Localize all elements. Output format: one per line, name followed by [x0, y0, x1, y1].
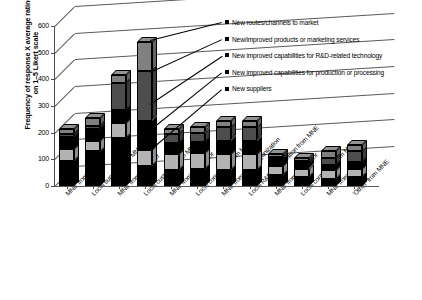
y-axis-tick-label: 500: [27, 49, 49, 56]
bar-segment[interactable]: [137, 121, 152, 150]
y-axis-tick-label: 0: [27, 182, 49, 189]
bar-segment[interactable]: [164, 154, 179, 170]
bar-segment[interactable]: [268, 159, 283, 166]
legend-item[interactable]: New improved capabilities for production…: [225, 68, 384, 85]
bar-segment[interactable]: [137, 150, 152, 166]
legend-swatch-icon: [225, 37, 229, 41]
y-axis-tick: [51, 106, 54, 107]
bar-segment[interactable]: [190, 153, 205, 169]
legend-item-label: New suppliers: [232, 85, 271, 92]
legend-item-label: New improved capabilities for R&D-relate…: [232, 52, 382, 59]
legend-item-label: New/improved products or marketing servi…: [232, 35, 359, 42]
y-axis-tick: [51, 26, 54, 27]
bar-segment[interactable]: [59, 129, 74, 134]
bar-segment[interactable]: [294, 169, 309, 177]
bar-segment[interactable]: [216, 154, 231, 170]
bar-segment[interactable]: [268, 154, 283, 157]
bar-segment[interactable]: [111, 83, 126, 110]
bar-segment[interactable]: [190, 127, 205, 132]
bar-segment[interactable]: [111, 123, 126, 138]
bar-segment[interactable]: [85, 129, 100, 141]
bar-segment[interactable]: [59, 134, 74, 137]
bar-segment[interactable]: [111, 138, 126, 186]
bar-segment[interactable]: [347, 162, 362, 169]
bar-segment[interactable]: [59, 161, 74, 186]
x-axis-line: [55, 186, 379, 187]
legend-item[interactable]: New suppliers: [225, 84, 384, 101]
bar-segment-side: [152, 66, 157, 120]
y-axis-tick-label: 400: [27, 75, 49, 82]
bar-column[interactable]: [59, 0, 74, 300]
legend-item-label: New improved capabilities for production…: [232, 69, 384, 76]
bar-segment[interactable]: [137, 71, 152, 120]
bar-segment[interactable]: [321, 151, 336, 158]
bar-segment[interactable]: [294, 161, 309, 164]
legend-swatch-icon: [225, 53, 229, 57]
bar-segment[interactable]: [321, 170, 336, 179]
legend-swatch-icon: [225, 70, 229, 74]
bar-segment[interactable]: [216, 141, 231, 154]
bar-segment[interactable]: [347, 169, 362, 177]
y-axis-tick: [51, 186, 54, 187]
y-axis-tick-label: 300: [27, 102, 49, 109]
legend-swatch-icon: [225, 20, 229, 24]
bar-segment[interactable]: [216, 121, 231, 128]
bar-segment[interactable]: [190, 142, 205, 153]
bar-segment[interactable]: [294, 158, 309, 161]
y-axis-tick: [51, 133, 54, 134]
bar-segment[interactable]: [164, 143, 179, 154]
y-axis-tick: [51, 53, 54, 54]
bar-segment[interactable]: [347, 145, 362, 152]
bar-column[interactable]: [85, 0, 100, 300]
bar-segment[interactable]: [321, 158, 336, 165]
legend-item[interactable]: New/improved products or marketing servi…: [225, 35, 384, 52]
bar-segment[interactable]: [268, 157, 283, 160]
bar-segment[interactable]: [59, 149, 74, 161]
bar-segment[interactable]: [59, 137, 74, 149]
y-axis-tick-label: 200: [27, 129, 49, 136]
bar-segment[interactable]: [242, 141, 257, 154]
bar-segment[interactable]: [111, 75, 126, 83]
bar-segment[interactable]: [347, 151, 362, 162]
y-axis-tick: [51, 159, 54, 160]
legend-item[interactable]: New routes/channels to market: [225, 18, 384, 35]
legend-swatch-icon: [225, 87, 229, 91]
bar-segment[interactable]: [190, 133, 205, 142]
y-axis-tick-label: 600: [27, 22, 49, 29]
bar-segment[interactable]: [242, 154, 257, 170]
bar-column[interactable]: [111, 0, 126, 300]
bar-segment-side: [152, 37, 157, 71]
bar-segment[interactable]: [137, 42, 152, 71]
bar-segment[interactable]: [321, 165, 336, 170]
y-axis-tick: [51, 79, 54, 80]
bar-segment[interactable]: [85, 151, 100, 186]
legend-item-label: New routes/channels to market: [232, 19, 319, 26]
bar-segment[interactable]: [85, 118, 100, 126]
bar-segment[interactable]: [294, 163, 309, 168]
chart-figure: Frequency of response X average rating o…: [0, 0, 422, 300]
bar-segment[interactable]: [111, 110, 126, 123]
legend-item[interactable]: New improved capabilities for R&D-relate…: [225, 51, 384, 68]
y-axis-tick-label: 100: [27, 155, 49, 162]
bar-column[interactable]: [190, 0, 205, 300]
bar-segment[interactable]: [268, 166, 283, 175]
bar-column[interactable]: [164, 0, 179, 300]
bar-segment[interactable]: [242, 127, 257, 140]
bar-segment[interactable]: [85, 126, 100, 129]
bar-segment[interactable]: [216, 127, 231, 140]
bar-segment[interactable]: [242, 121, 257, 128]
bar-segment[interactable]: [85, 141, 100, 152]
chart-legend: New routes/channels to marketNew/improve…: [225, 18, 384, 101]
